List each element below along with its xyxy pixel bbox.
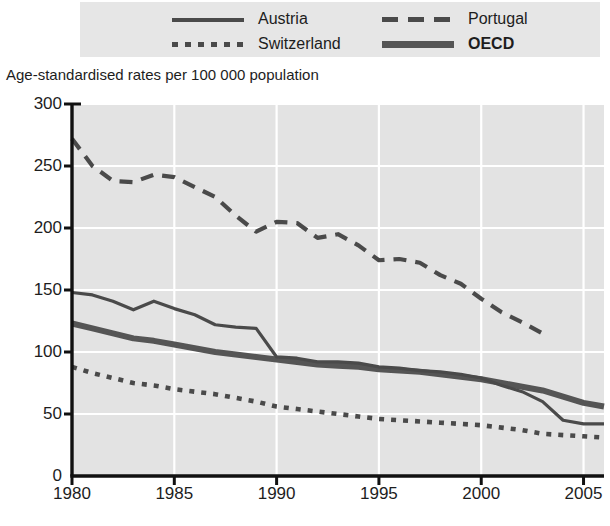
x-tick-label: 1985 (139, 484, 209, 504)
chart-area: 050100150200250300 198019851990199520002… (0, 88, 610, 526)
y-axis-caption: Age-standardised rates per 100 000 popul… (6, 66, 319, 83)
y-tick-label: 250 (0, 156, 62, 176)
legend-swatch-switzerland-icon (172, 42, 244, 47)
x-tick-label: 2000 (446, 484, 516, 504)
legend-swatch-oecd-icon (382, 41, 454, 48)
legend-label-oecd: OECD (468, 33, 514, 55)
x-tick-label: 1995 (344, 484, 414, 504)
plot-svg (0, 88, 610, 526)
legend-swatch-austria-icon (172, 18, 244, 22)
y-tick-label: 100 (0, 342, 62, 362)
legend-label-portugal: Portugal (468, 8, 528, 30)
chart-legend: Austria Portugal Switzerland OECD (80, 2, 600, 57)
series-line-austria (72, 292, 604, 423)
legend-swatch-portugal-icon (382, 17, 454, 22)
x-tick-label: 2005 (549, 484, 610, 504)
x-tick-label: 1980 (37, 484, 107, 504)
y-tick-label: 0 (0, 466, 62, 486)
legend-label-austria: Austria (258, 8, 308, 30)
y-tick-label: 300 (0, 94, 62, 114)
series-line-switzerland (72, 367, 604, 438)
legend-label-switzerland: Switzerland (258, 33, 341, 55)
y-tick-label: 150 (0, 280, 62, 300)
x-tick-label: 1990 (242, 484, 312, 504)
y-tick-label: 200 (0, 218, 62, 238)
chart-page: Austria Portugal Switzerland OECD Age-st… (0, 0, 610, 526)
y-tick-label: 50 (0, 404, 62, 424)
